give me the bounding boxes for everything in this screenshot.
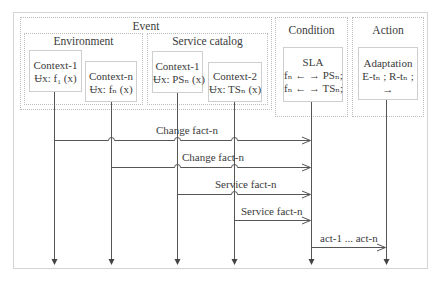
message-3-label: Service fact-n	[215, 178, 276, 190]
message-2-arrow	[112, 164, 311, 171]
message-4-label: Service fact-n	[241, 205, 302, 217]
message-1-label: Change fact-n	[156, 124, 218, 136]
message-4-arrow	[235, 217, 311, 224]
message-5-arrow	[312, 244, 386, 251]
message-1-arrow	[55, 137, 311, 144]
diagram-canvas: Event Environment Service catalog Condit…	[0, 0, 442, 282]
message-2-label: Change fact-n	[182, 151, 244, 163]
message-3-arrow	[178, 191, 311, 198]
lifeline-arrowheads	[52, 259, 390, 265]
message-5-label: act-1 ... act-n	[320, 232, 378, 244]
